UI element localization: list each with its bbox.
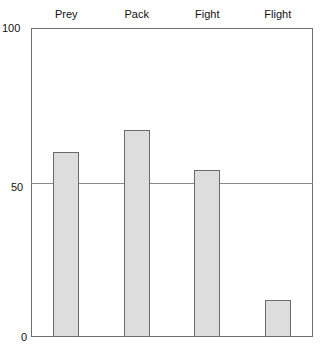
plot-area: [31, 28, 313, 337]
y-axis-tick-label-100: 100: [2, 23, 29, 34]
category-label-flight: Flight: [264, 8, 291, 20]
bar-prey: [53, 152, 79, 337]
bar-fight: [194, 170, 220, 337]
bar-pack: [124, 130, 150, 337]
category-label-fight: Fight: [195, 8, 219, 20]
category-label-pack: Pack: [125, 8, 149, 20]
bar-flight: [265, 300, 291, 337]
category-label-prey: Prey: [55, 8, 78, 20]
y-axis-tick-label-50: 50: [11, 182, 29, 193]
bar-chart: 100 50 0 Prey Pack Fight Flight: [0, 0, 324, 356]
y-axis-tick-label-0: 0: [21, 332, 29, 343]
